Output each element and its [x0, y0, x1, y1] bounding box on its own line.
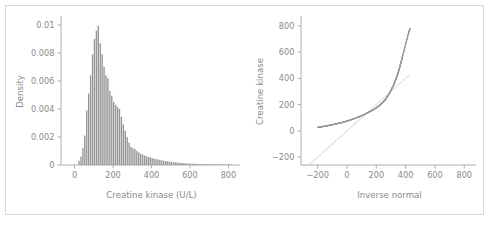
histogram-bar — [100, 43, 101, 165]
histogram-bar — [146, 156, 147, 165]
histogram-bar — [169, 162, 170, 165]
histogram-bar — [128, 143, 129, 165]
x-tick-label: 800 — [456, 170, 472, 180]
histogram-bar — [98, 26, 99, 165]
qq-axes — [298, 16, 477, 169]
qq-y-axis-title: Creatine kinase — [255, 58, 265, 125]
histogram-bar — [121, 117, 122, 165]
y-tick-label: 400 — [279, 73, 295, 83]
qq-point — [409, 28, 410, 29]
histogram-bar — [80, 157, 81, 165]
histogram-bar — [142, 155, 143, 166]
x-tick-label: 0 — [72, 170, 77, 180]
y-tick-label: 800 — [279, 21, 295, 31]
histogram-y-axis-title: Density — [15, 75, 25, 108]
y-tick-label: 0 — [289, 126, 294, 136]
histogram-bar — [138, 152, 139, 165]
histogram-bar — [107, 78, 108, 165]
histogram-bar — [150, 157, 151, 165]
histogram-bar — [90, 75, 91, 165]
y-tick-label: 0.006 — [31, 76, 54, 86]
histogram-bar — [152, 158, 153, 165]
y-tick-label: 0 — [49, 160, 54, 170]
histogram-bar — [161, 160, 162, 165]
histogram-bar — [153, 159, 154, 165]
figure-container: 0200400600800 00.0020.0040.0060.0080.01 … — [0, 0, 491, 234]
histogram-bar — [119, 109, 120, 165]
qq-reference-line — [309, 74, 410, 165]
histogram-bar — [140, 154, 141, 165]
qq-plot: −2000200400600800 −2000200400600800 Inve… — [246, 0, 482, 210]
histogram-bar — [126, 137, 127, 165]
histogram-bar — [155, 159, 156, 165]
x-tick-label: 600 — [427, 170, 443, 180]
histogram-bar — [94, 39, 95, 165]
qq-data-points — [317, 28, 411, 128]
histogram-bar — [125, 131, 126, 165]
y-tick-label: 0.01 — [36, 20, 54, 30]
histogram-bars — [78, 26, 231, 165]
histogram-bar — [148, 157, 149, 165]
histogram-bar — [105, 75, 106, 165]
histogram-bar — [103, 67, 104, 165]
histogram-bar — [88, 94, 89, 165]
qq-y-tick-labels: −2000200400600800 — [272, 21, 295, 162]
y-tick-label: 200 — [279, 100, 295, 110]
histogram-bar — [167, 161, 168, 165]
histogram-panel: 0200400600800 00.0020.0040.0060.0080.01 … — [8, 0, 246, 210]
histogram-bar — [92, 54, 93, 165]
histogram-bar — [134, 149, 135, 165]
qq-x-axis-title: Inverse normal — [357, 190, 422, 200]
histogram-bar — [132, 148, 133, 165]
histogram-bar — [111, 96, 112, 165]
histogram-bar — [115, 105, 116, 165]
y-tick-label: 0.002 — [31, 132, 54, 142]
histogram-bar — [165, 161, 166, 165]
x-tick-label: 0 — [344, 170, 349, 180]
y-tick-label: 600 — [279, 47, 295, 57]
histogram-bar — [86, 110, 87, 165]
histogram-bar — [101, 54, 102, 165]
histogram-bar — [113, 102, 114, 165]
x-tick-label: 200 — [368, 170, 384, 180]
histogram-bar — [171, 162, 172, 165]
histogram-bar — [109, 91, 110, 165]
qq-plot-panel: −2000200400600800 −2000200400600800 Inve… — [246, 0, 482, 210]
histogram-bar — [159, 160, 160, 165]
histogram-bar — [157, 159, 158, 165]
histogram-y-tick-labels: 00.0020.0040.0060.0080.01 — [31, 20, 54, 170]
qq-x-tick-labels: −2000200400600800 — [306, 170, 472, 180]
histogram-bar — [163, 161, 164, 165]
histogram-bar — [96, 31, 97, 165]
x-tick-label: 200 — [105, 170, 121, 180]
histogram-bar — [130, 147, 131, 165]
histogram-bar — [123, 124, 124, 165]
histogram-bar — [136, 151, 137, 165]
histogram-bar — [82, 148, 83, 165]
x-tick-label: −200 — [306, 170, 329, 180]
y-tick-label: −200 — [272, 152, 295, 162]
histogram-bar — [173, 162, 174, 165]
x-tick-label: 400 — [398, 170, 414, 180]
histogram-x-axis-title: Creatine kinase (U/L) — [106, 190, 196, 200]
y-tick-label: 0.008 — [31, 48, 54, 58]
histogram-plot: 0200400600800 00.0020.0040.0060.0080.01 … — [8, 0, 246, 210]
x-tick-label: 600 — [182, 170, 198, 180]
histogram-bar — [117, 107, 118, 165]
y-tick-label: 0.004 — [31, 104, 54, 114]
histogram-x-tick-labels: 0200400600800 — [72, 170, 236, 180]
x-tick-label: 800 — [221, 170, 237, 180]
histogram-bar — [144, 155, 145, 165]
histogram-bar — [78, 161, 79, 165]
histogram-bar — [84, 136, 85, 165]
x-tick-label: 400 — [144, 170, 160, 180]
